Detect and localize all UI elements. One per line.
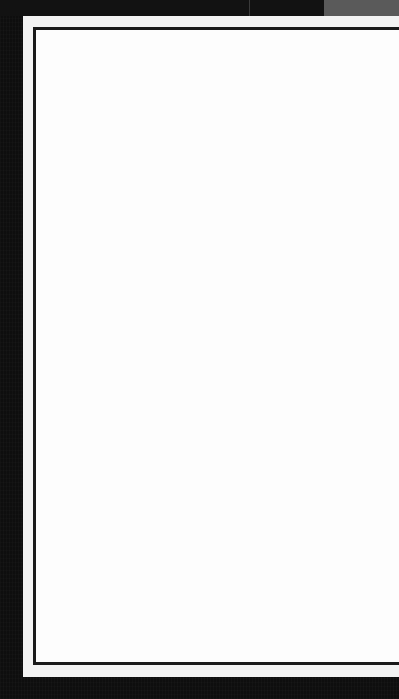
page-content-area: [36, 30, 399, 662]
top-strip-divider: [249, 0, 250, 16]
scan-background: [0, 0, 399, 699]
top-dark-strip: [0, 0, 324, 16]
page-border-frame: [33, 27, 399, 665]
